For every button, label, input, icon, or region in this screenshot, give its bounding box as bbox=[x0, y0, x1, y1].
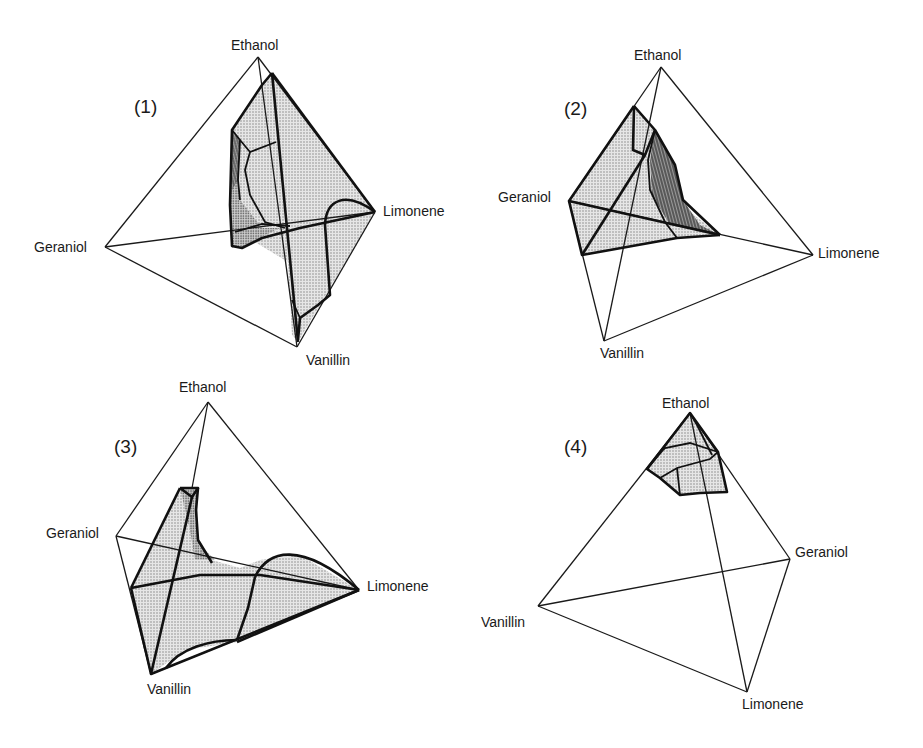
vertex-label-ethanol: Ethanol bbox=[634, 47, 681, 63]
vertex-label-limonene: Limonene bbox=[742, 696, 804, 712]
panel-1-label: (1) bbox=[134, 96, 157, 118]
panel-4-label: (4) bbox=[564, 436, 587, 458]
vertex-label-limonene: Limonene bbox=[383, 203, 445, 219]
vertex-label-geraniol: Geraniol bbox=[498, 189, 551, 205]
panel-3-tetrahedron bbox=[116, 402, 359, 674]
vertex-label-ethanol: Ethanol bbox=[662, 395, 709, 411]
vertex-label-ethanol: Ethanol bbox=[179, 379, 226, 395]
vertex-label-vanillin: Vanillin bbox=[481, 614, 525, 630]
vertex-label-limonene: Limonene bbox=[367, 578, 429, 594]
vertex-label-geraniol: Geraniol bbox=[46, 525, 99, 541]
vertex-label-geraniol: Geraniol bbox=[34, 239, 87, 255]
vertex-label-ethanol: Ethanol bbox=[231, 37, 278, 53]
vertex-label-vanillin: Vanillin bbox=[147, 681, 191, 697]
panel-2-label: (2) bbox=[564, 98, 587, 120]
vertex-label-vanillin: Vanillin bbox=[600, 345, 644, 361]
vertex-label-geraniol: Geraniol bbox=[795, 544, 848, 560]
panel-2-tetrahedron bbox=[569, 67, 813, 341]
vertex-label-vanillin: Vanillin bbox=[306, 352, 350, 368]
vertex-label-limonene: Limonene bbox=[818, 245, 880, 261]
panel-3-label: (3) bbox=[114, 436, 137, 458]
